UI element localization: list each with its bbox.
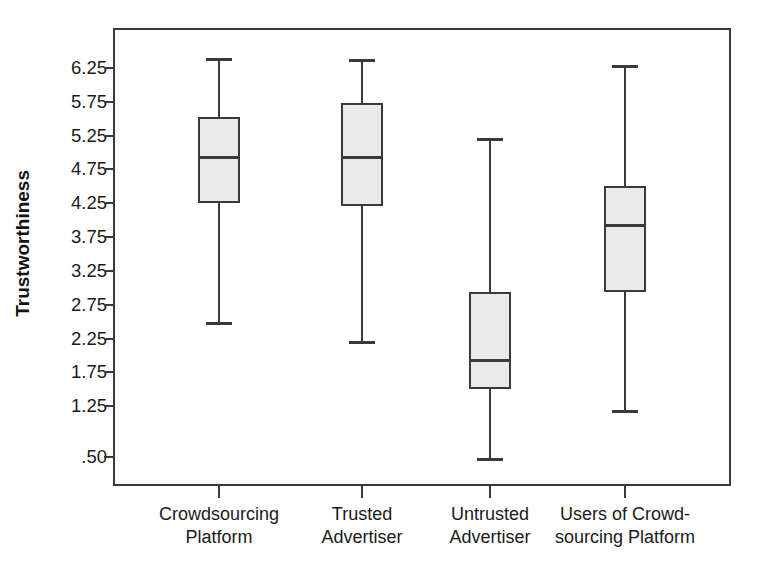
- y-tick-label: 4.75: [71, 158, 107, 180]
- y-tick-label: 5.25: [71, 125, 107, 147]
- y-tick-mark: [104, 405, 115, 407]
- y-tick-mark: [104, 67, 115, 69]
- whisker-upper: [624, 65, 626, 186]
- x-tick-mark: [489, 486, 491, 498]
- y-tick-mark: [104, 135, 115, 137]
- x-tick-mark: [624, 486, 626, 498]
- y-axis-title: Trustworthiness: [0, 0, 46, 486]
- y-tick-mark: [104, 304, 115, 306]
- whisker-cap-lower: [477, 458, 503, 461]
- y-tick-label: 5.75: [71, 91, 107, 113]
- whisker-lower: [218, 203, 220, 321]
- y-axis-tick-labels: 6.255.755.254.754.253.753.252.752.251.75…: [46, 0, 107, 486]
- whisker-cap-upper: [206, 58, 232, 61]
- y-tick-label: 2.75: [71, 294, 107, 316]
- y-tick-mark: [104, 338, 115, 340]
- whisker-lower: [361, 206, 363, 341]
- median-line: [604, 224, 646, 227]
- y-tick-label: 2.25: [71, 328, 107, 350]
- y-tick-label: 1.75: [71, 361, 107, 383]
- y-tick-label: 1.25: [71, 395, 107, 417]
- whisker-cap-lower: [206, 322, 232, 325]
- boxplot-figure: Trustworthiness 6.255.755.254.754.253.75…: [0, 0, 760, 579]
- median-line: [341, 156, 383, 159]
- median-line: [469, 359, 511, 362]
- y-tick-label: 3.75: [71, 226, 107, 248]
- whisker-upper: [361, 59, 363, 103]
- y-tick-label: 3.25: [71, 260, 107, 282]
- whisker-cap-upper: [349, 59, 375, 62]
- y-tick-mark: [104, 456, 115, 458]
- y-axis-title-text: Trustworthiness: [12, 170, 34, 317]
- whisker-cap-upper: [477, 138, 503, 141]
- y-tick-mark: [104, 371, 115, 373]
- whisker-lower: [489, 389, 491, 459]
- whisker-lower: [624, 292, 626, 410]
- iqr-box: [604, 186, 646, 292]
- x-tick-mark: [218, 486, 220, 498]
- whisker-upper: [218, 58, 220, 117]
- median-line: [198, 156, 240, 159]
- iqr-box: [341, 103, 383, 206]
- y-tick-label: 4.25: [71, 192, 107, 214]
- y-tick-label: 6.25: [71, 57, 107, 79]
- whisker-cap-lower: [349, 341, 375, 344]
- whisker-upper: [489, 138, 491, 292]
- iqr-box: [198, 117, 240, 204]
- y-tick-mark: [104, 101, 115, 103]
- x-tick-mark: [361, 486, 363, 498]
- whisker-cap-upper: [612, 65, 638, 68]
- x-category-label: Users of Crowd- sourcing Platform: [540, 503, 710, 549]
- iqr-box: [469, 292, 511, 389]
- y-tick-mark: [104, 236, 115, 238]
- y-tick-mark: [104, 270, 115, 272]
- y-tick-mark: [104, 168, 115, 170]
- y-tick-mark: [104, 202, 115, 204]
- whisker-cap-lower: [612, 410, 638, 413]
